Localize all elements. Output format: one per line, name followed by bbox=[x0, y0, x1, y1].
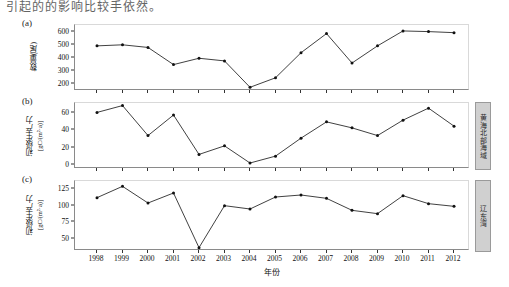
panel-c-series bbox=[75, 181, 470, 251]
x-tick-mark bbox=[147, 168, 148, 171]
x-tick-label: 2004 bbox=[242, 254, 257, 263]
x-tick-mark bbox=[96, 250, 97, 253]
data-point bbox=[376, 134, 379, 137]
panel-b-series bbox=[75, 103, 470, 169]
x-tick-label: 2012 bbox=[446, 254, 461, 263]
data-point bbox=[274, 76, 277, 79]
y-tick-label: 40 bbox=[62, 125, 70, 134]
data-point bbox=[402, 194, 405, 197]
x-tick-mark bbox=[224, 250, 225, 253]
panel-b-side-label: 黄海北部海域 bbox=[475, 102, 491, 170]
data-point bbox=[223, 204, 226, 207]
x-tick-label: 2009 bbox=[369, 254, 384, 263]
x-tick-mark bbox=[122, 250, 123, 253]
x-tick-mark bbox=[275, 90, 276, 93]
y-tick-label: 500 bbox=[58, 39, 69, 48]
data-point bbox=[402, 119, 405, 122]
panel-b-plot bbox=[74, 102, 469, 168]
data-point bbox=[453, 125, 456, 128]
data-point bbox=[172, 192, 175, 195]
x-tick-mark bbox=[198, 250, 199, 253]
x-tick-mark bbox=[173, 250, 174, 253]
y-tick-label: 100 bbox=[58, 200, 69, 209]
data-point bbox=[376, 212, 379, 215]
y-tick-label: 300 bbox=[58, 66, 69, 75]
x-tick-label: 2002 bbox=[191, 254, 206, 263]
y-tick-label: 0 bbox=[65, 159, 69, 168]
x-tick-label: 2008 bbox=[344, 254, 359, 263]
data-point bbox=[427, 202, 430, 205]
data-point bbox=[325, 120, 328, 123]
x-tick-mark bbox=[377, 168, 378, 171]
x-tick-mark bbox=[402, 90, 403, 93]
data-point bbox=[325, 197, 328, 200]
panel-c-ylabel-unit: [gC/(m²·a)] bbox=[36, 182, 44, 248]
x-tick-mark bbox=[300, 168, 301, 171]
data-point bbox=[223, 144, 226, 147]
data-point bbox=[274, 196, 277, 199]
x-tick-mark bbox=[351, 250, 352, 253]
data-point bbox=[325, 32, 328, 35]
data-point bbox=[453, 31, 456, 34]
data-point bbox=[147, 134, 150, 137]
y-tick-label: 50 bbox=[62, 234, 70, 243]
x-tick-mark bbox=[122, 168, 123, 171]
x-tick-mark bbox=[96, 168, 97, 171]
data-point bbox=[172, 63, 175, 66]
x-tick-mark bbox=[326, 250, 327, 253]
x-tick-mark bbox=[249, 90, 250, 93]
x-tick-label: 2000 bbox=[140, 254, 155, 263]
x-tick-mark bbox=[275, 250, 276, 253]
panel-a: (a) 数量(尾) 200300400500600 bbox=[0, 18, 509, 96]
data-point bbox=[427, 107, 430, 110]
x-tick-label: 2006 bbox=[293, 254, 308, 263]
x-tick-mark bbox=[300, 250, 301, 253]
y-tick-label: 200 bbox=[58, 79, 69, 88]
data-point bbox=[351, 209, 354, 212]
panel-a-plot bbox=[74, 24, 469, 90]
x-tick-mark bbox=[326, 168, 327, 171]
x-tick-mark bbox=[147, 90, 148, 93]
data-point bbox=[351, 62, 354, 65]
data-point bbox=[402, 29, 405, 32]
x-tick-mark bbox=[428, 90, 429, 93]
x-tick-mark bbox=[377, 250, 378, 253]
data-point bbox=[96, 111, 99, 114]
x-tick-mark bbox=[275, 168, 276, 171]
data-point bbox=[300, 194, 303, 197]
x-tick-label: 2005 bbox=[267, 254, 282, 263]
data-point bbox=[198, 153, 201, 156]
x-tick-mark bbox=[300, 90, 301, 93]
x-tick-mark bbox=[198, 168, 199, 171]
x-axis-title: 年份 bbox=[264, 266, 280, 277]
data-point bbox=[96, 44, 99, 47]
x-tick-mark bbox=[326, 90, 327, 93]
data-point bbox=[274, 155, 277, 158]
data-point bbox=[453, 205, 456, 208]
x-tick-mark bbox=[402, 168, 403, 171]
panel-b: (b) 初级生产力 [gC/(m²·a)] 0204060 黄海北部海域 bbox=[0, 96, 509, 174]
x-tick-mark bbox=[173, 90, 174, 93]
data-point bbox=[300, 137, 303, 140]
x-tick-label: 1998 bbox=[89, 254, 104, 263]
data-point bbox=[198, 246, 201, 249]
x-tick-label: 2010 bbox=[395, 254, 410, 263]
x-tick-mark bbox=[453, 90, 454, 93]
y-tick-label: 20 bbox=[62, 142, 70, 151]
panel-c-plot bbox=[74, 180, 469, 250]
x-tick-mark bbox=[224, 168, 225, 171]
x-tick-label: 2007 bbox=[318, 254, 333, 263]
data-point bbox=[172, 114, 175, 117]
x-tick-mark bbox=[147, 250, 148, 253]
x-tick-label: 1999 bbox=[114, 254, 129, 263]
y-tick-label: 75 bbox=[62, 217, 70, 226]
panel-a-series bbox=[75, 25, 470, 91]
x-tick-mark bbox=[249, 168, 250, 171]
x-tick-mark bbox=[428, 168, 429, 171]
x-tick-mark bbox=[122, 90, 123, 93]
y-tick-label: 600 bbox=[58, 26, 69, 35]
data-point bbox=[376, 44, 379, 47]
panel-c-side-label: 辽东湾 bbox=[475, 180, 491, 252]
x-tick-label: 2001 bbox=[165, 254, 180, 263]
data-point bbox=[96, 196, 99, 199]
